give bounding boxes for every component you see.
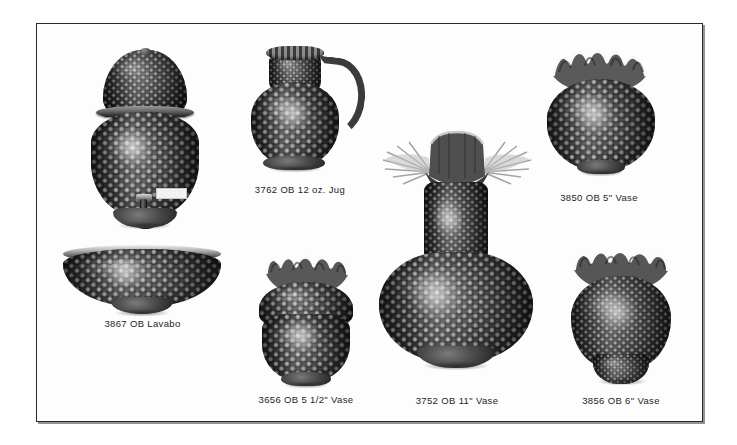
hobnail-texture — [251, 82, 339, 166]
hobnail-texture — [593, 354, 649, 384]
jug-body — [251, 82, 339, 166]
product-photo-beverage-dispenser — [77, 48, 212, 228]
caption-vase-6in: 3856 OB 6" Vase — [549, 395, 693, 406]
hobnail-texture — [103, 50, 187, 112]
vase-body — [547, 79, 655, 171]
lavabo-foot — [111, 297, 173, 314]
caption-vase-5in: 3850 OB 5" Vase — [525, 192, 673, 203]
product-photo-lavabo — [55, 239, 230, 324]
vase-foot — [417, 346, 495, 368]
product-photo-vase-5-5in — [245, 252, 367, 400]
dispenser-lid — [103, 50, 187, 112]
dispenser-finial — [140, 48, 151, 55]
catalog-page: 3762 OB 12 oz. Jug 3850 OB 5" Vase — [36, 23, 703, 422]
product-photo-jug-12oz — [235, 32, 365, 180]
product-photo-vase-6in — [555, 246, 687, 401]
vase-foot — [577, 160, 625, 174]
product-label-sticker — [156, 188, 187, 199]
dispenser-foot — [113, 208, 177, 228]
vase-foot — [281, 372, 331, 386]
caption-jug-12oz: 3762 OB 12 oz. Jug — [235, 184, 365, 195]
product-photo-vase-11in — [367, 128, 547, 396]
vase-pedestal-foot — [593, 354, 649, 384]
jug-crimped-rim — [266, 46, 324, 60]
hobnail-texture — [547, 79, 655, 171]
caption-vase-11in: 3752 OB 11" Vase — [377, 395, 537, 406]
caption-lavabo: 3867 OB Lavabo — [55, 318, 230, 329]
jug-foot — [263, 156, 325, 170]
product-photo-vase-5in — [525, 46, 673, 194]
caption-vase-5-5in: 3656 OB 5 1/2" Vase — [236, 394, 376, 405]
